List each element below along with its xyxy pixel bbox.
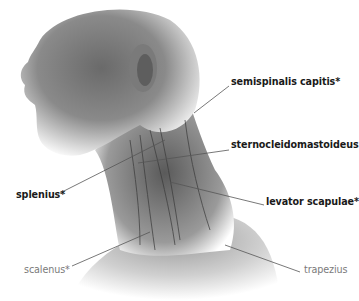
label-trapezius: trapezius [304,264,347,275]
label-semispinalis-capitis: semispinalis capitis* [231,76,340,87]
label-sternocleidomastoideus: sternocleidomastoideus [231,139,359,150]
label-levator-scapulae: levator scapulae* [266,196,359,207]
label-scalenus: scalenus* [24,264,70,275]
ear-inner [137,54,153,86]
label-splenius: splenius* [16,189,65,200]
